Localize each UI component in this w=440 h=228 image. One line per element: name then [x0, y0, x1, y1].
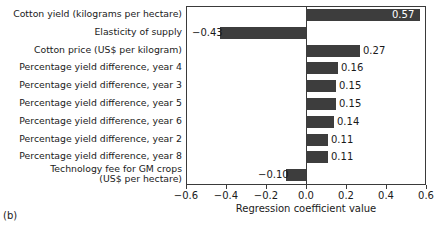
bar-value-label: 0.15: [339, 98, 361, 110]
bar-value-label: 0.16: [341, 62, 363, 74]
category-label: Elasticity of supply: [0, 27, 182, 37]
bar: [286, 169, 306, 181]
x-tick-label: 0.2: [338, 190, 354, 202]
regression-coefficient-bar-chart: Cotton yield (kilograms per hectare)Elas…: [0, 0, 440, 228]
panel-caption: (b): [3, 210, 17, 221]
bar: [306, 45, 360, 57]
bar: [220, 27, 306, 39]
bar-value-label: 0.14: [337, 116, 359, 128]
x-tick-mark: [186, 185, 187, 189]
category-label: Cotton yield (kilograms per hectare): [0, 9, 182, 19]
x-axis-title: Regression coefficient value: [186, 203, 426, 214]
x-tick-mark: [306, 185, 307, 189]
category-label: Cotton price (US$ per kilogram): [0, 45, 182, 55]
x-tick-label: 0.0: [298, 190, 314, 202]
bar: [306, 151, 328, 163]
x-tick-mark: [426, 185, 427, 189]
bar-value-label: 0.27: [363, 45, 385, 57]
category-label: Percentage yield difference, year 6: [0, 116, 182, 126]
bar-value-label: 0.11: [331, 134, 353, 146]
bar-value-label: −0.10: [258, 169, 289, 181]
category-label: Percentage yield difference, year 5: [0, 98, 182, 108]
category-label: Percentage yield difference, year 4: [0, 62, 182, 72]
bar: [306, 62, 338, 74]
category-label: Technology fee for GM crops (US$ per hec…: [0, 164, 182, 184]
category-axis-labels: Cotton yield (kilograms per hectare)Elas…: [0, 6, 182, 184]
bar-value-label: −0.43: [192, 27, 223, 39]
bar-value-label: 0.11: [331, 151, 353, 163]
bar: [306, 98, 336, 110]
category-label: Percentage yield difference, year 2: [0, 134, 182, 144]
x-tick-mark: [266, 185, 267, 189]
plot-area: 0.57−0.430.270.160.150.150.140.110.11−0.…: [186, 6, 426, 185]
x-tick-label: −0.2: [254, 190, 278, 202]
x-tick-mark: [386, 185, 387, 189]
x-tick-label: 0.6: [418, 190, 434, 202]
category-label: Percentage yield difference, year 8: [0, 151, 182, 161]
category-label: Percentage yield difference, year 3: [0, 80, 182, 90]
x-tick-mark: [346, 185, 347, 189]
bar-value-label: 0.15: [339, 80, 361, 92]
x-tick-label: 0.4: [378, 190, 394, 202]
bar: [306, 116, 334, 128]
x-tick-label: −0.4: [214, 190, 238, 202]
x-tick-mark: [226, 185, 227, 189]
x-tick-label: −0.6: [174, 190, 198, 202]
bar-value-label: 0.57: [392, 9, 414, 21]
bar: [306, 134, 328, 146]
bar: [306, 80, 336, 92]
